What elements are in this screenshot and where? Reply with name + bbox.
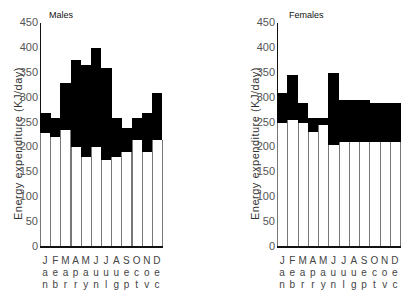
month-label: S [359,255,369,267]
month-label: F [287,255,297,267]
y-tick-label: 300 [249,92,275,103]
bar-upper-segment [328,73,339,145]
y-tick-label: 150 [249,166,275,177]
y-tick-label: 450 [249,17,275,28]
month-label: b [287,279,297,291]
bar-upper-segment [390,103,401,143]
y-tick-label: 50 [249,216,275,227]
month-label: A [349,255,359,267]
month-label: u [349,267,359,279]
y-tick-label: 250 [249,117,275,128]
month-label: u [339,267,349,279]
bar-upper-segment [287,75,298,120]
month-label: J [328,255,338,267]
month-label: c [390,279,400,291]
bar-upper-segment [380,103,391,143]
bar-upper-segment [308,118,319,133]
month-label: n [328,279,338,291]
month-label: M [298,255,308,267]
bar-upper-segment [369,103,380,143]
month-label: e [287,267,297,279]
y-tick-label: 400 [249,42,275,53]
month-label: y [318,279,328,291]
month-label: l [339,279,349,291]
month-label: r [298,279,308,291]
month-label: n [277,279,287,291]
month-label: J [277,255,287,267]
y-tick-label: 100 [249,191,275,202]
y-tick-label: 350 [249,67,275,78]
month-label: e [359,267,369,279]
bar-upper-segment [318,118,329,125]
x-axis [277,246,401,248]
month-label: M [318,255,328,267]
bar-upper-segment [339,100,350,142]
month-label: p [308,267,318,279]
bar-lower-segment [390,142,401,247]
females-chart: FemalesEnergy expenditure (KJ/day)050100… [0,0,409,292]
month-label: v [380,279,390,291]
month-label: a [298,267,308,279]
bar-upper-segment [298,103,309,123]
month-label: r [308,279,318,291]
month-label: a [318,267,328,279]
month-label: u [328,267,338,279]
month-label: e [390,267,400,279]
month-label: J [339,255,349,267]
y-tick-label: 0 [249,241,275,252]
bar-upper-segment [359,100,370,142]
chart-title: Females [289,10,324,20]
month-label: p [359,279,369,291]
month-label: D [390,255,400,267]
month-label: t [369,279,379,291]
month-label: A [308,255,318,267]
month-label: a [277,267,287,279]
bar-upper-segment [277,93,288,123]
month-label: c [369,267,379,279]
month-label: N [380,255,390,267]
bar-upper-segment [349,100,360,142]
month-label: O [369,255,379,267]
y-tick-label: 200 [249,141,275,152]
month-label: g [349,279,359,291]
month-label: o [380,267,390,279]
